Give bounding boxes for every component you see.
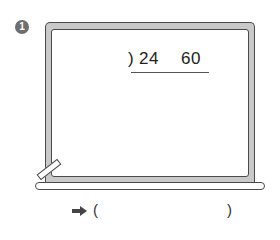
value-second: 60 [181,48,201,70]
value-first: 24 [139,48,159,70]
division-bar [131,72,209,73]
right-arrow-icon [72,202,87,216]
dividend-values: 2460 [139,48,201,70]
open-paren: ( [93,201,98,219]
chalkboard-ledge [35,182,265,190]
division-bracket: ) [128,48,134,70]
problem-number-badge: 1 [15,20,29,34]
close-paren: ) [227,201,232,219]
answer-blank[interactable] [102,202,280,220]
